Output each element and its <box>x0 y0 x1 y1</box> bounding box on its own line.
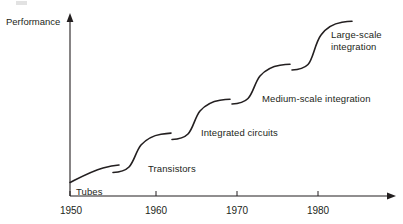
x-tick-label-1970: 1970 <box>220 205 254 216</box>
x-tick-label-1980: 1980 <box>301 205 335 216</box>
annotation-tubes: Tubes <box>76 186 103 198</box>
annotation-large-scale-integration-line1: Large-scale <box>331 29 382 41</box>
annotation-medium-scale-integration: Medium-scale integration <box>262 93 371 105</box>
curve-tubes <box>70 165 119 183</box>
x-tick-label-1960: 1960 <box>139 205 173 216</box>
y-axis-title: Performance <box>6 16 60 27</box>
y-axis-arrowhead <box>67 13 74 22</box>
performance-over-time-figure: Performance 1950 1960 1970 1980 Tubes Tr… <box>0 0 403 224</box>
x-tick-label-1950: 1950 <box>54 205 88 216</box>
annotation-large-scale-integration-line2: integration <box>331 41 376 53</box>
annotation-integrated-circuits: Integrated circuits <box>201 127 278 139</box>
x-axis-arrowhead <box>387 193 396 200</box>
annotation-transistors: Transistors <box>148 163 196 175</box>
